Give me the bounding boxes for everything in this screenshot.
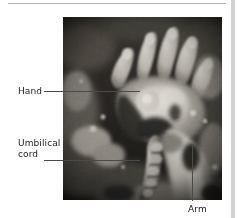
page-gutter-strip [231,0,235,218]
label-hand: Hand [18,86,42,97]
label-arm: Arm [188,204,207,215]
ultrasound-image [63,17,222,200]
label-umbilical-cord-line2: cord [18,149,38,159]
leader-line-hand [44,91,140,92]
ultrasound-image-canvas [63,17,222,200]
label-umbilical-cord-line1: Umbilical [18,138,60,148]
label-umbilical-cord: Umbilical cord [18,138,78,160]
leader-line-umbilical-cord [44,160,140,161]
leader-line-arm [192,145,193,201]
figure-page: Hand Umbilical cord Arm [0,0,238,218]
top-divider-rule [8,3,226,4]
